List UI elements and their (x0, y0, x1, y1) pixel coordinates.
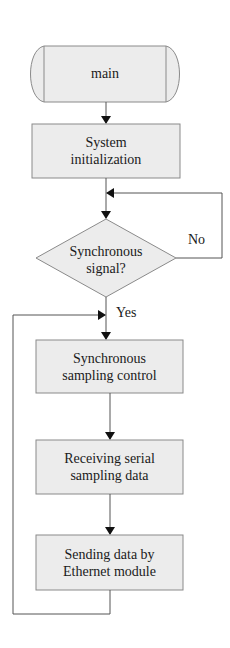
decision-label-line2: signal? (36, 260, 176, 277)
node-recv-label: Receiving serial sampling data (36, 450, 183, 484)
recv-label-line2: sampling data (36, 467, 183, 484)
recv-label-line1: Receiving serial (36, 450, 183, 467)
node-main-label: main (44, 65, 166, 82)
sync-ctrl-label-line1: Synchronous (36, 350, 183, 367)
main-label-text: main (91, 66, 119, 81)
edge-label-no: No (188, 232, 205, 248)
send-label-line1: Sending data by (36, 546, 183, 563)
init-label-line2: initialization (32, 151, 180, 168)
send-label-line2: Ethernet module (36, 563, 183, 580)
edge-label-yes: Yes (116, 305, 136, 321)
decision-label-line1: Synchronous (36, 243, 176, 260)
node-send-label: Sending data by Ethernet module (36, 546, 183, 580)
node-decision-label: Synchronous signal? (36, 243, 176, 277)
node-init-label: System initialization (32, 134, 180, 168)
init-label-line1: System (32, 134, 180, 151)
sync-ctrl-label-line2: sampling control (36, 367, 183, 384)
node-sync-ctrl-label: Synchronous sampling control (36, 350, 183, 384)
